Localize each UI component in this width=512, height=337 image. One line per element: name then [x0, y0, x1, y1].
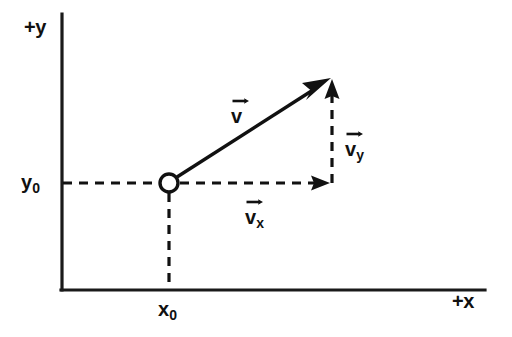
x-component-label: vx	[245, 196, 264, 227]
y0-tick-label: y0	[21, 172, 40, 192]
y-axis-label: +y	[24, 17, 46, 37]
x-component-letter: v	[245, 206, 256, 228]
y-component-letter: v	[345, 138, 356, 160]
resultant-vector-label: v	[231, 95, 242, 126]
x-component-subscript: x	[256, 215, 264, 231]
x0-tick-label: x0	[158, 299, 177, 319]
vy-arrowhead-icon	[325, 79, 340, 99]
x0-tick-subscript: 0	[169, 307, 177, 323]
x-axis-label: +x	[452, 291, 474, 311]
resultant-vector-letter: v	[231, 105, 242, 127]
resultant-vector-shaft	[177, 90, 313, 177]
x0-tick-letter: x	[158, 298, 169, 320]
origin-point-marker	[160, 174, 178, 192]
y-component-subscript: y	[356, 147, 364, 163]
y0-tick-letter: y	[21, 171, 32, 193]
diagram-graphics	[0, 0, 512, 337]
y-component-label: vy	[345, 128, 364, 159]
y0-tick-subscript: 0	[32, 180, 40, 196]
vector-diagram-canvas: +y +x y0 x0 v vx vy	[0, 0, 512, 337]
